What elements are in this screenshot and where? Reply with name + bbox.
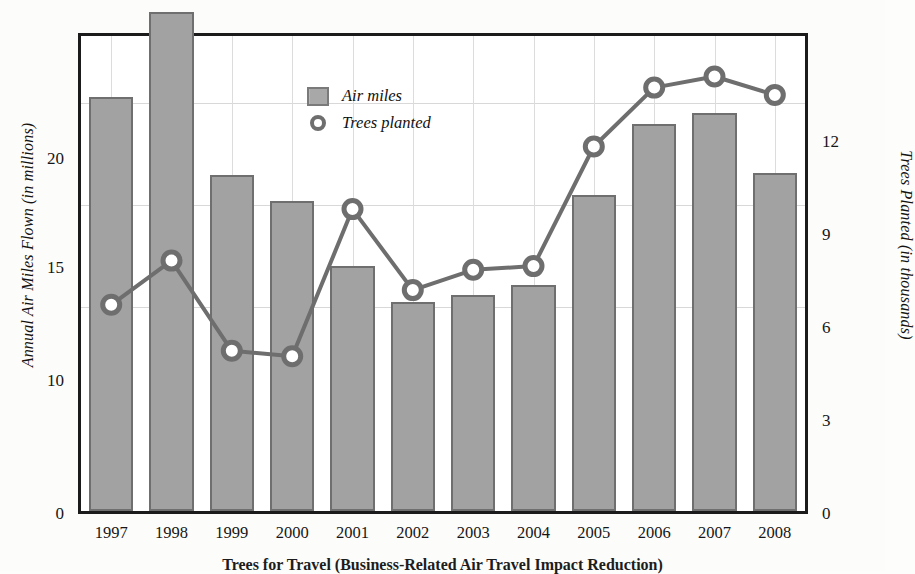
bar-2001 — [330, 266, 375, 511]
bar-2005 — [572, 195, 617, 511]
x-tick-2008: 2008 — [735, 523, 815, 543]
y-axis-right-title: Trees Planted (in thousands) — [897, 65, 915, 425]
chart-legend: Air miles Trees planted — [307, 84, 431, 138]
circle-marker-icon — [307, 114, 329, 133]
legend-item-air-miles: Air miles — [307, 84, 431, 108]
y-tick-right-0: 0 — [822, 504, 872, 524]
figure-caption: Trees for Travel (Business-Related Air T… — [0, 556, 885, 574]
bar-swatch-icon — [307, 87, 329, 106]
bar-2007 — [692, 113, 737, 511]
y-tick-right-9: 9 — [822, 225, 872, 245]
bar-2003 — [451, 295, 496, 511]
y-tick-right-6: 6 — [822, 318, 872, 338]
bar-2008 — [753, 173, 798, 511]
bar-1998 — [149, 12, 194, 511]
y-tick-right-12: 12 — [822, 132, 872, 152]
bar-1999 — [210, 175, 255, 511]
bar-1997 — [89, 97, 134, 511]
legend-label-air-miles: Air miles — [342, 88, 402, 105]
legend-label-trees-planted: Trees planted — [342, 115, 431, 132]
y-tick-left-15: 15 — [14, 258, 64, 278]
legend-item-trees-planted: Trees planted — [307, 111, 431, 135]
y-tick-left-0: 0 — [14, 504, 64, 524]
plot-area: Air miles Trees planted — [78, 33, 808, 514]
y-tick-left-10: 10 — [14, 371, 64, 391]
bar-2006 — [632, 124, 677, 511]
bar-2000 — [270, 201, 315, 511]
y-tick-right-3: 3 — [822, 411, 872, 431]
bar-2004 — [511, 285, 556, 511]
y-tick-left-20: 20 — [14, 149, 64, 169]
bar-2002 — [391, 302, 436, 511]
